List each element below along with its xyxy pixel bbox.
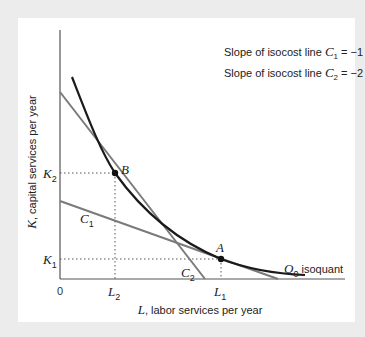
k1-label: K1 [42,252,57,270]
origin-label: 0 [57,285,63,297]
l2-label: L2 [107,284,120,302]
k2-label: K2 [42,166,57,184]
point-b-label: B [121,162,129,177]
isoquant-curve-q0 [72,77,305,275]
q0-isoquant-label: Q0 isoquant [284,261,343,279]
point-b-marker [112,170,118,176]
c2-label: C2 [181,265,195,283]
c1-label: C1 [80,211,94,229]
point-a-label: A [215,240,224,255]
slope-c1-annotation: Slope of isocost line C1 = −1 [224,44,363,61]
isocost-line-c2 [60,92,205,279]
isoquant-chart: Slope of isocost line C1 = −1 Slope of i… [0,0,365,337]
point-a-marker [218,256,224,262]
slope-c2-annotation: Slope of isocost line C2 = −2 [224,65,363,82]
x-axis-label: L, labor services per year [137,302,263,317]
l1-label: L1 [213,284,226,302]
y-axis-label: K, capital services per year [24,95,39,230]
